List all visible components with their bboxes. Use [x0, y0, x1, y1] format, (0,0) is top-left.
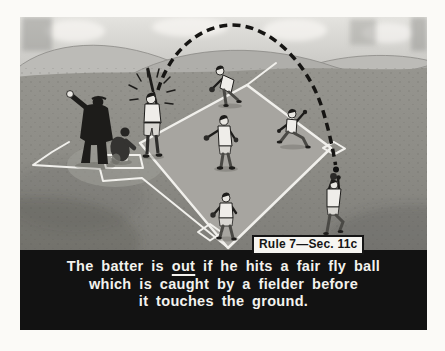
- baseball-scene: [20, 17, 427, 250]
- caption-line-2: which is caught by a fielder before: [20, 276, 427, 294]
- field-illustration: [20, 17, 427, 250]
- catch-glove-icon: [330, 173, 337, 180]
- caption-line-1-pre: The batter is: [67, 258, 172, 274]
- filmstrip-slide: Rule 7—Sec. 11c The batter is out if he …: [0, 0, 445, 351]
- rule-badge: Rule 7—Sec. 11c: [252, 235, 364, 255]
- baseball-icon: [333, 167, 339, 173]
- fielder-glove-icon: [209, 87, 215, 93]
- pitcher-glove-icon: [204, 135, 210, 141]
- caption-line-1: The batter is out if he hits a fair fly …: [20, 258, 427, 276]
- caption-line-3: it touches the ground.: [20, 293, 427, 311]
- caption-band: The batter is out if he hits a fair fly …: [20, 250, 427, 330]
- underlined-word-out: out: [172, 258, 195, 274]
- caption-line-1-post: if he hits a fair fly ball: [195, 258, 380, 274]
